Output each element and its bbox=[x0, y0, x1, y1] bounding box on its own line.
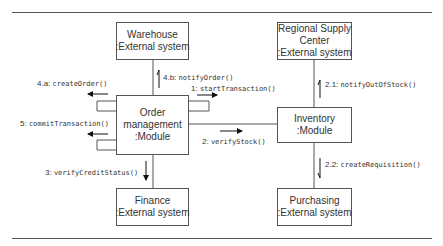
node-finance: Finance :External system bbox=[116, 188, 189, 226]
message-notify-out-of-stock: 2.1: notifyOutOfStock() bbox=[325, 80, 416, 90]
message-verify-credit-status: 3: verifyCreditStatus() bbox=[45, 168, 138, 178]
message-create-requisition: 2.2: createRequisition() bbox=[325, 160, 421, 170]
node-purchasing: Purchasing :External system bbox=[277, 188, 352, 226]
node-order-management: Order management :Module bbox=[116, 95, 189, 155]
message-create-order: 4.a: createOrder() bbox=[37, 79, 107, 89]
node-inventory: Inventory :Module bbox=[277, 107, 352, 143]
node-stereotype: :External system bbox=[278, 47, 352, 59]
node-stereotype: :Module bbox=[297, 125, 333, 137]
node-stereotype: :External system bbox=[116, 41, 190, 53]
message-notify-order: 4.b: notifyOrder() bbox=[163, 73, 233, 83]
message-commit-transaction: 5: commitTransaction() bbox=[20, 119, 109, 129]
node-regional-supply-center: Regional Supply Center :External system bbox=[277, 22, 352, 60]
message-start-transaction: 1: startTransaction() bbox=[191, 84, 276, 94]
node-label: Warehouse bbox=[127, 29, 178, 41]
node-label: Regional Supply bbox=[278, 23, 351, 35]
node-label: Purchasing bbox=[289, 195, 339, 207]
node-label: management bbox=[123, 119, 181, 131]
message-verify-stock: 2: verifyStock() bbox=[202, 137, 266, 147]
node-warehouse: Warehouse :External system bbox=[116, 22, 189, 60]
node-stereotype: :External system bbox=[278, 207, 352, 219]
node-label: Order bbox=[140, 107, 166, 119]
node-label: Inventory bbox=[294, 113, 335, 125]
node-stereotype: :Module bbox=[135, 131, 171, 143]
node-label: Center bbox=[299, 35, 329, 47]
node-stereotype: :External system bbox=[116, 207, 190, 219]
node-label: Finance bbox=[135, 195, 171, 207]
